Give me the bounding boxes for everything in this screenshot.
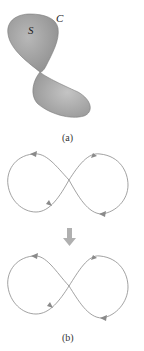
arrow-up-right-icon <box>47 302 53 308</box>
surface-label: S <box>28 24 34 36</box>
caption-a: (a) <box>62 132 73 143</box>
arrow-up-right-icon <box>46 200 52 206</box>
curve-label: C <box>56 12 63 24</box>
surface-s-lower-lobe <box>33 72 90 117</box>
arrow-left-icon <box>30 151 37 157</box>
arrow-left-icon <box>100 315 107 321</box>
caption-b: (b) <box>62 332 74 343</box>
figure-eight-top-arrows <box>30 151 106 217</box>
figure-eight-bottom <box>8 256 128 318</box>
figure-eight-top <box>8 154 128 214</box>
surface-s-upper-lobe <box>8 14 59 72</box>
down-arrow-icon <box>63 228 76 246</box>
arrow-left-icon <box>31 253 38 259</box>
figure-eight-bottom-arrows <box>31 253 107 321</box>
arrow-left-icon <box>99 211 106 217</box>
diagram-canvas <box>0 0 144 351</box>
